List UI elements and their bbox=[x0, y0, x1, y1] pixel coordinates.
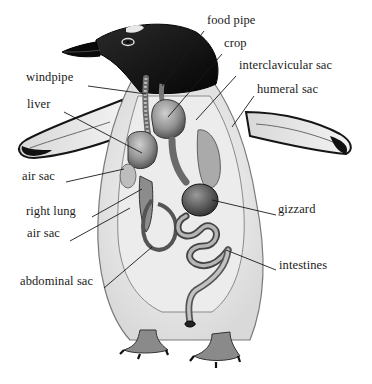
label-air-sac-lower: air sac bbox=[27, 227, 60, 240]
crop-organ bbox=[152, 100, 185, 139]
label-air-sac-upper: air sac bbox=[22, 170, 55, 183]
label-intestines: intestines bbox=[279, 259, 327, 272]
penguin-anatomy-diagram: food pipe crop interclavicular sac humer… bbox=[0, 0, 372, 384]
label-gizzard: gizzard bbox=[278, 203, 315, 216]
label-liver: liver bbox=[27, 98, 50, 111]
label-windpipe: windpipe bbox=[26, 71, 73, 84]
label-humeral-sac: humeral sac bbox=[257, 83, 318, 96]
label-crop: crop bbox=[224, 37, 247, 50]
label-interclavicular-sac: interclavicular sac bbox=[239, 59, 332, 72]
label-food-pipe: food pipe bbox=[207, 14, 255, 27]
penguin-head bbox=[62, 24, 218, 93]
liver-organ bbox=[128, 131, 158, 168]
label-abdominal-sac: abdominal sac bbox=[20, 275, 93, 288]
label-right-lung: right lung bbox=[26, 205, 76, 218]
air-sac-organ bbox=[120, 164, 136, 188]
right-flipper bbox=[246, 112, 351, 154]
